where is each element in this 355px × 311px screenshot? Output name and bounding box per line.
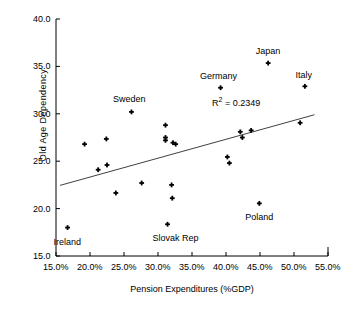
trendline: [60, 115, 314, 186]
r-squared-annotation: R2 = 0.2349: [212, 96, 260, 108]
x-axis-tick-label: 50.0%: [281, 262, 307, 272]
data-point-marker: [227, 161, 232, 166]
data-point-marker: [169, 183, 174, 188]
trendline-path: [60, 115, 314, 186]
x-axis-tick-label: 40.0%: [213, 262, 239, 272]
x-axis-tick-label: 20.0%: [77, 262, 103, 272]
data-point-label: Poland: [245, 212, 273, 222]
x-axis-tick-label: 25.0%: [111, 262, 137, 272]
data-points: [65, 61, 307, 230]
data-point-marker: [113, 191, 118, 196]
data-point-marker: [163, 123, 168, 128]
data-point-marker: [104, 137, 109, 142]
data-point-marker: [240, 135, 245, 140]
y-axis-tick-label: 30.0: [33, 109, 51, 119]
data-point-marker: [238, 129, 243, 134]
data-point-label: Sweden: [113, 94, 146, 104]
x-axis-tick-label: 30.0%: [145, 262, 171, 272]
y-axis-tick-label: 15.0: [33, 251, 51, 261]
data-point-label: Japan: [256, 46, 281, 56]
data-point-marker: [218, 85, 223, 90]
data-point-marker: [225, 155, 230, 160]
data-point-marker: [266, 61, 271, 66]
x-axis-tick-label: 45.0%: [247, 262, 273, 272]
data-point-marker: [96, 167, 101, 172]
y-axis-tick-label: 40.0: [33, 14, 51, 24]
scatter-chart: Old Age Dependency Pension Expenditures …: [0, 0, 355, 311]
data-point-label: Slovak Rep: [153, 233, 199, 243]
axes-group: [56, 19, 328, 256]
data-point-label: Germany: [200, 71, 237, 81]
data-point-marker: [302, 84, 307, 89]
y-axis-tick-label: 20.0: [33, 204, 51, 214]
x-axis-tick-label: 15.0%: [43, 262, 69, 272]
data-point-marker: [105, 163, 110, 168]
data-point-marker: [65, 225, 70, 230]
data-point-label: Ireland: [54, 237, 82, 247]
data-point-marker: [257, 201, 262, 206]
data-point-marker: [129, 110, 134, 115]
data-point-label: Italy: [295, 70, 312, 80]
x-axis-tick-label: 55.0%: [315, 262, 341, 272]
data-point-marker: [82, 142, 87, 147]
data-point-marker: [170, 196, 175, 201]
data-point-marker: [165, 222, 170, 227]
data-point-marker: [298, 120, 303, 125]
x-axis-title: Pension Expenditures (%GDP): [56, 284, 328, 294]
y-axis-tick-label: 25.0: [33, 156, 51, 166]
data-point-marker: [163, 138, 168, 143]
y-axis-tick-label: 35.0: [33, 61, 51, 71]
r-squared-value: = 0.2349: [222, 98, 260, 108]
data-point-marker: [139, 181, 144, 186]
x-axis-tick-label: 35.0%: [179, 262, 205, 272]
